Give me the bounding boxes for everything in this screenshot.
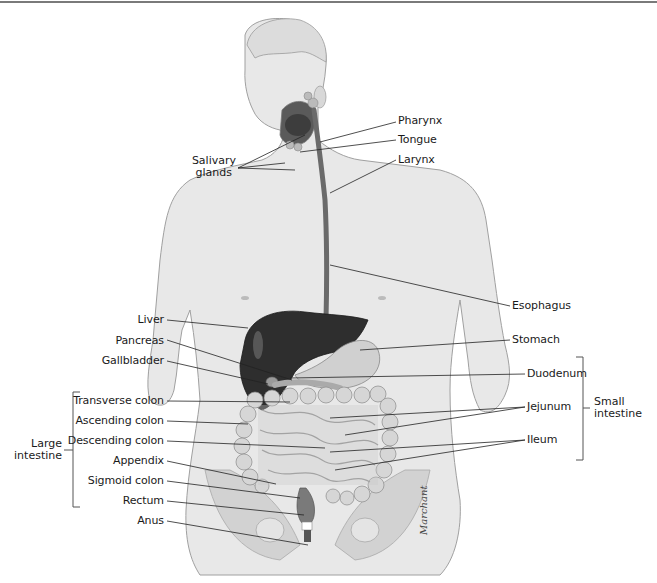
label-appendix: Appendix: [60, 454, 164, 467]
label-rectum: Rectum: [60, 494, 164, 507]
label-pharynx: Pharynx: [398, 114, 442, 127]
label-pancreas: Pancreas: [60, 334, 164, 347]
label-salivary-glands: Salivary glands: [170, 155, 236, 179]
label-small-intestine: Small intestine: [594, 396, 654, 420]
label-transverse-colon: Transverse colon: [60, 394, 164, 407]
label-sigmoid-colon: Sigmoid colon: [60, 474, 164, 487]
label-tongue: Tongue: [398, 133, 437, 146]
label-stomach: Stomach: [512, 333, 560, 346]
label-descending-colon: Descending colon: [60, 434, 164, 447]
label-large-intestine: Large intestine: [10, 438, 62, 462]
label-gallbladder: Gallbladder: [60, 354, 164, 367]
tongue-shape: [285, 114, 311, 136]
label-jejunum: Jejunum: [527, 400, 571, 413]
artist-signature: Marchant: [418, 486, 429, 535]
label-duodenum: Duodenum: [527, 367, 587, 380]
small-intestine-line2: intestine: [594, 408, 654, 420]
label-ileum: Ileum: [527, 433, 557, 446]
anus-shape: [304, 530, 311, 542]
label-anus: Anus: [60, 514, 164, 527]
salivary-line2: glands: [170, 167, 236, 179]
large-intestine-line2: intestine: [10, 450, 62, 462]
label-ascending-colon: Ascending colon: [60, 414, 164, 427]
label-larynx: Larynx: [398, 153, 435, 166]
label-liver: Liver: [60, 313, 164, 326]
label-esophagus: Esophagus: [512, 299, 571, 312]
